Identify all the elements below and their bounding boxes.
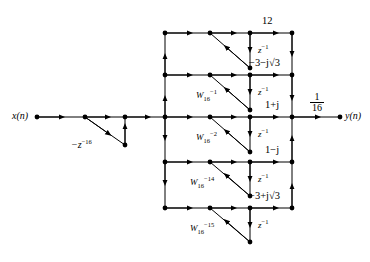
coefficient-base-row-bottom: W xyxy=(190,223,198,233)
node-left-row-middle xyxy=(163,115,168,120)
coefficient-base-row-4: W xyxy=(190,177,198,187)
coefficient-sub-row-bottom: 16 xyxy=(198,228,205,235)
delay-label-row-bottom: z−1 xyxy=(258,221,268,230)
node-sum-row-bottom xyxy=(208,206,213,211)
node-state-row-2 xyxy=(248,73,253,78)
node-right-row-top xyxy=(290,31,295,36)
node-right-row-4 xyxy=(290,160,295,165)
node-comb-sum xyxy=(123,115,128,120)
coefficient-row-4: W16−14 xyxy=(190,178,214,187)
delay-exponent-row-4: −1 xyxy=(262,172,269,179)
resonator-row-bottom xyxy=(165,208,292,242)
output-gain-numerator: 1 xyxy=(310,92,324,102)
comb-gain-label: −z−16 xyxy=(71,140,92,150)
node-output xyxy=(338,115,343,120)
coefficient-sub-row-middle: 16 xyxy=(204,137,211,144)
output-gain-denominator: 16 xyxy=(310,102,324,113)
output-label: y(n) xyxy=(345,111,361,121)
node-state-row-middle xyxy=(248,115,253,120)
comb-gain-base: −z xyxy=(71,139,82,150)
node-comb-branch xyxy=(83,115,88,120)
node-left-row-bottom xyxy=(163,206,168,211)
coefficient-sup-row-4: −14 xyxy=(204,175,214,182)
numerator-row-bottom: −3+j√3 xyxy=(249,191,280,202)
coefficient-row-bottom: W16−15 xyxy=(190,224,214,233)
node-state-row-top xyxy=(248,31,253,36)
node-left-row-2 xyxy=(163,73,168,78)
coefficient-base-row-2: W xyxy=(196,90,204,100)
node-sum-row-4 xyxy=(208,160,213,165)
node-right-row-2 xyxy=(290,73,295,78)
delay-label-row-2: z−1 xyxy=(258,88,268,97)
numerator-row-2: −3−j√3 xyxy=(249,58,280,69)
comb-gain-exponent: −16 xyxy=(82,138,92,145)
node-left-row-top xyxy=(163,31,168,36)
node-delay-row-2 xyxy=(248,108,253,113)
node-sum-row-top xyxy=(208,31,213,36)
input-label: x(n) xyxy=(12,111,28,121)
delay-label-row-4: z−1 xyxy=(258,175,268,184)
node-delay-row-bottom xyxy=(248,240,253,245)
node-right-row-bottom xyxy=(290,206,295,211)
numerator-row-middle: 1+j xyxy=(265,100,279,111)
signal-flow-graph-figure: x(n) −z−16 12 z−1 −3−j√3 z−1 W16−1 1+j z… xyxy=(0,0,370,262)
coefficient-base-row-middle: W xyxy=(196,132,204,142)
numerator-row-top: 12 xyxy=(262,16,273,27)
delay-label-row-middle: z−1 xyxy=(258,130,268,139)
delay-label-row-top: z−1 xyxy=(258,46,268,55)
coefficient-sup-row-bottom: −15 xyxy=(204,221,214,228)
coefficient-sup-row-middle: −2 xyxy=(210,130,217,137)
node-state-row-4 xyxy=(248,160,253,165)
node-delay-row-middle xyxy=(248,150,253,155)
node-comb-delay xyxy=(123,143,128,148)
delay-exponent-row-2: −1 xyxy=(262,85,269,92)
node-right-row-middle xyxy=(290,115,295,120)
node-sum-row-middle xyxy=(208,115,213,120)
numerator-row-4: 1−j xyxy=(265,145,279,156)
delay-exponent-row-top: −1 xyxy=(262,43,269,50)
coefficient-sub-row-2: 16 xyxy=(204,95,211,102)
node-input xyxy=(35,115,40,120)
delay-exponent-row-bottom: −1 xyxy=(262,218,269,225)
node-left-row-4 xyxy=(163,160,168,165)
delay-exponent-row-middle: −1 xyxy=(262,127,269,134)
comb-section xyxy=(37,117,165,145)
flow-graph-canvas xyxy=(0,0,370,262)
node-state-row-bottom xyxy=(248,206,253,211)
coefficient-row-2: W16−1 xyxy=(196,91,217,100)
coefficient-sup-row-2: −1 xyxy=(210,88,217,95)
coefficient-sub-row-4: 16 xyxy=(198,182,205,189)
output-gain-label: 1 16 xyxy=(310,92,324,113)
coefficient-row-middle: W16−2 xyxy=(196,133,217,142)
node-sum-row-2 xyxy=(208,73,213,78)
